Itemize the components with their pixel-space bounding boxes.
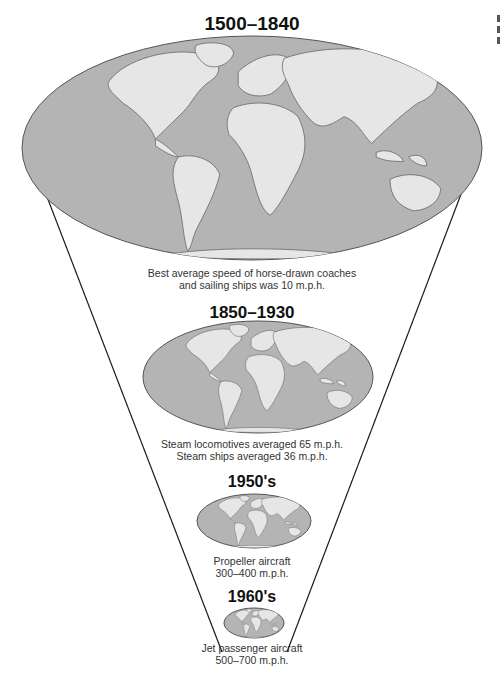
era-title-1950s: 1950's (0, 473, 504, 491)
caption-line: 500–700 m.p.h. (0, 654, 504, 666)
caption-line: Propeller aircraft (0, 555, 504, 567)
caption-1500-1840: Best average speed of horse-drawn coache… (0, 267, 504, 291)
caption-1850-1930: Steam locomotives averaged 65 m.p.h. Ste… (0, 438, 504, 462)
world-map-smallest (224, 608, 284, 638)
caption-line: and sailing ships was 10 m.p.h. (0, 279, 504, 291)
era-title-1960s: 1960's (0, 588, 504, 606)
caption-line: Steam locomotives averaged 65 m.p.h. (0, 438, 504, 450)
world-map-large (22, 36, 482, 260)
world-map-medium (143, 321, 373, 433)
caption-1960s: Jet passenger aircraft 500–700 m.p.h. (0, 642, 504, 666)
caption-line: Steam ships averaged 36 m.p.h. (0, 450, 504, 462)
caption-1950s: Propeller aircraft 300–400 m.p.h. (0, 555, 504, 579)
world-map-small (197, 494, 311, 548)
caption-line: Best average speed of horse-drawn coache… (0, 267, 504, 279)
caption-line: Jet passenger aircraft (0, 642, 504, 654)
era-title-1500-1840: 1500–1840 (0, 13, 504, 35)
caption-line: 300–400 m.p.h. (0, 567, 504, 579)
era-title-1850-1930: 1850–1930 (0, 303, 504, 323)
